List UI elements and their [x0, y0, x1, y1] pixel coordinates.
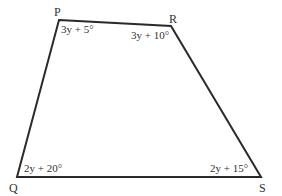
quadrilateral-diagram: P R S Q 3y + 5° 3y + 10° 2y + 20° 2y + 1…: [0, 0, 282, 196]
angle-label-q: 2y + 20°: [24, 162, 62, 174]
vertex-label-r: R: [169, 12, 177, 26]
angle-label-p: 3y + 5°: [61, 23, 94, 35]
vertex-label-p: P: [54, 5, 61, 19]
quadrilateral-pqsr: [17, 20, 261, 177]
angle-label-s: 2y + 15°: [210, 162, 248, 174]
vertex-label-s: S: [259, 181, 266, 195]
vertex-label-q: Q: [9, 181, 18, 195]
angle-label-r: 3y + 10°: [131, 29, 169, 41]
